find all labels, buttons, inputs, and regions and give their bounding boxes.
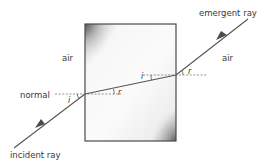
glass-block xyxy=(85,24,176,141)
incident-ray xyxy=(14,94,85,148)
emergent-ray xyxy=(176,19,248,75)
glass-block-shade-bottom-right xyxy=(85,24,176,141)
label-incident-ray: incident ray xyxy=(10,150,61,160)
label-air-right: air xyxy=(222,53,234,63)
incident-arrow-icon xyxy=(35,119,45,128)
angle-arc-entry-incidence xyxy=(77,94,80,99)
angle-label-entry-i: i xyxy=(68,96,71,105)
emergent-arrow-icon xyxy=(216,31,227,40)
label-air-left: air xyxy=(62,53,74,63)
refraction-diagram: i r i r emergent ray air air normal inci… xyxy=(0,0,268,167)
label-normal: normal xyxy=(20,90,50,100)
label-emergent-ray: emergent ray xyxy=(199,8,257,18)
angle-arc-exit-refraction xyxy=(182,70,184,75)
